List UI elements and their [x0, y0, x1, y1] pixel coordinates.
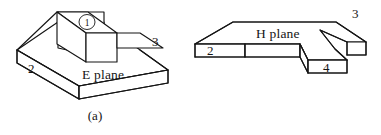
figure-b-drawing: 2 3 4 H plane: [190, 0, 381, 108]
figure-b-plane-label: H plane: [256, 26, 300, 41]
figure-a-plane-label: E plane: [82, 67, 124, 82]
plate-right-end-face: [347, 42, 366, 55]
figure-a-callout-number: 1: [85, 18, 90, 28]
figure-a-caption: (a): [0, 108, 190, 124]
figure-sheet: 2 3 1 E plane (a): [0, 0, 381, 135]
plate-front-left-face: [245, 44, 300, 57]
riser-right-face: [86, 33, 117, 62]
figure-b-label-3: 3: [352, 6, 359, 21]
figure-a: 2 3 1 E plane (a): [0, 0, 190, 135]
figure-b-label-2: 2: [207, 43, 214, 58]
figure-a-drawing: 2 3 1 E plane: [0, 0, 190, 108]
plate-left-face: [195, 44, 245, 57]
figure-b: 2 3 4 H plane (b): [190, 0, 381, 135]
figure-a-label-2: 2: [28, 61, 35, 76]
figure-b-label-4: 4: [323, 60, 330, 75]
figure-a-label-3: 3: [152, 34, 159, 49]
